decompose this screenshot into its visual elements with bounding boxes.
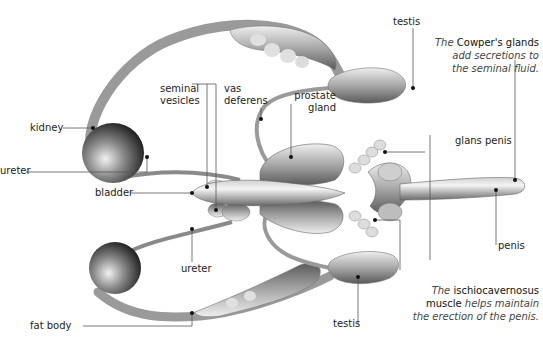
label-testis-lower: testis: [333, 318, 360, 330]
caption-cowpers-glands: The Cowper's glands add secretions to th…: [435, 36, 539, 75]
penis: [400, 177, 525, 200]
kidney-lower: [89, 242, 141, 294]
testis-upper: [328, 68, 406, 103]
label-ureter-bottom: ureter: [181, 263, 212, 275]
testis-lower: [328, 251, 399, 283]
prostate-gland: [260, 144, 344, 185]
kidney-upper: [82, 123, 144, 183]
label-kidney: kidney: [30, 122, 63, 134]
label-glans-penis: glans penis: [455, 135, 512, 147]
label-testis-upper: testis: [393, 16, 420, 28]
label-bladder: bladder: [95, 187, 133, 199]
label-penis: penis: [498, 240, 525, 252]
anatomy-diagram: testis kidney ureter bladder seminal ves…: [0, 0, 543, 349]
caption-ischiocavernosus: The ischiocavernosus muscle helps mainta…: [413, 284, 539, 323]
label-fat-body: fat body: [30, 320, 71, 332]
label-ureter-left: ureter: [0, 165, 31, 177]
